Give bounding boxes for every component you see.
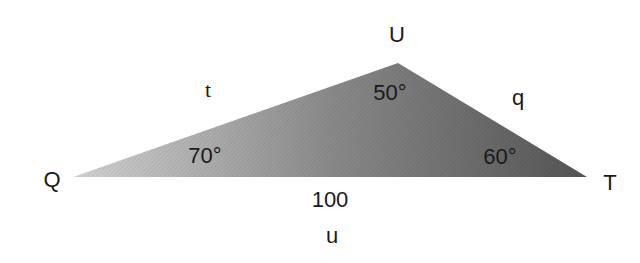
triangle-diagram: [0, 0, 640, 263]
angle-q-label: 70°: [188, 145, 221, 167]
vertex-q-label: Q: [43, 169, 60, 191]
side-q-label: q: [512, 87, 524, 109]
side-u-label: u: [326, 225, 338, 247]
angle-t-label: 60°: [483, 146, 516, 168]
side-t-label: t: [205, 79, 211, 101]
vertex-t-label: T: [603, 172, 616, 194]
angle-u-label: 50°: [373, 82, 406, 104]
base-length-label: 100: [312, 189, 349, 211]
vertex-u-label: U: [389, 24, 405, 46]
